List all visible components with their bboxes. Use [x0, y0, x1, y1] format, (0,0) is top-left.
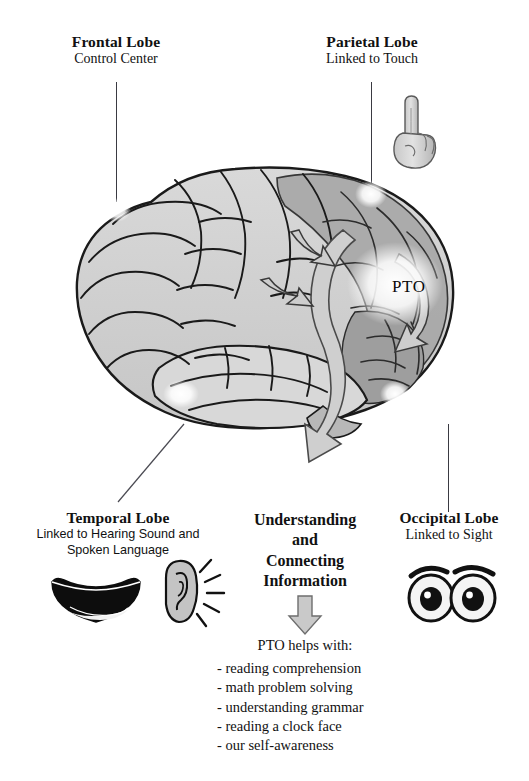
temporal-lobe-title: Temporal Lobe — [5, 509, 231, 527]
callout-frontal-lobe: Frontal Lobe Control Center — [16, 33, 216, 68]
ear-with-sound-rays-icon — [148, 556, 226, 630]
occipital-lobe-title: Occipital Lobe — [373, 509, 525, 527]
glow-frontal — [103, 198, 131, 222]
list-item: - reading comprehension — [217, 659, 467, 678]
down-arrow-icon — [287, 594, 323, 636]
frontal-lobe-title: Frontal Lobe — [16, 33, 216, 51]
understanding-line-1: Understanding — [220, 510, 390, 530]
callout-temporal-lobe: Temporal Lobe Linked to Hearing Sound an… — [5, 509, 231, 559]
occipital-lobe-subtitle: Linked to Sight — [373, 527, 525, 544]
pto-helps-heading: PTO helps with: — [205, 637, 405, 654]
pto-helps-list: - reading comprehension - math problem s… — [217, 659, 467, 755]
understanding-line-2: and — [220, 530, 390, 550]
pto-label: PTO — [392, 277, 426, 297]
brain-diagram-page: Frontal Lobe Control Center Parietal Lob… — [0, 0, 529, 781]
callout-occipital-lobe: Occipital Lobe Linked to Sight — [373, 509, 525, 544]
brain-illustration — [55, 162, 475, 452]
parietal-lobe-title: Parietal Lobe — [272, 33, 472, 51]
understanding-line-3: Connecting — [220, 551, 390, 571]
glow-parietal — [355, 180, 387, 208]
pair-of-eyes-icon — [403, 562, 503, 626]
list-item: - reading a clock face — [217, 717, 467, 736]
list-item: - understanding grammar — [217, 698, 467, 717]
parietal-lobe-subtitle: Linked to Touch — [272, 51, 472, 68]
temporal-lobe-subtitle-line1: Linked to Hearing Sound and — [5, 527, 231, 543]
glow-temporal — [163, 380, 199, 408]
understanding-line-4: Information — [220, 571, 390, 591]
list-item: - our self-awareness — [217, 736, 467, 755]
glow-occipital — [380, 381, 410, 407]
frontal-lobe-subtitle: Control Center — [16, 51, 216, 68]
smiling-mouth-icon — [48, 570, 144, 626]
list-item: - math problem solving — [217, 678, 467, 697]
understanding-block: Understanding and Connecting Information — [220, 510, 390, 592]
callout-parietal-lobe: Parietal Lobe Linked to Touch — [272, 33, 472, 68]
